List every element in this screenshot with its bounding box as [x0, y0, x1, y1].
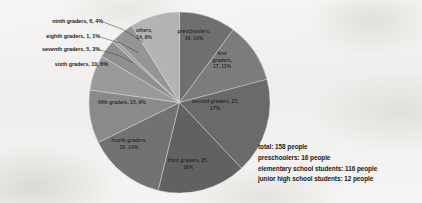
- summary-elementary: elementary school students: 116 people: [258, 164, 377, 175]
- pie-label-seventh-graders: seventh graders, 5, 3%: [0, 46, 100, 52]
- summary-text-block: total: 158 people preschoolers: 16 peopl…: [258, 142, 377, 185]
- pie-label-first-graders: first graders, 17, 11%: [200, 50, 244, 70]
- summary-junior-high: junior high school students: 12 people: [258, 174, 377, 185]
- pie-label-preschoolers: preschoolers, 16, 10%: [168, 28, 220, 41]
- pie-label-others: others, 14, 9%: [125, 27, 163, 40]
- pie-label-eighth-graders: eighth graders, 1, 1%: [0, 33, 100, 39]
- pie-label-fourth-graders: fourth graders, 22, 14%: [98, 137, 160, 150]
- pie-label-sixth-graders: sixth graders, 10, 6%: [0, 61, 108, 67]
- pie-label-third-graders: third graders, 25, 16%: [151, 157, 225, 170]
- summary-total: total: 158 people: [258, 142, 377, 153]
- pie-label-fifth-graders: fifth graders, 15, 9%: [82, 99, 162, 106]
- summary-preschoolers: preschoolers: 16 people: [258, 153, 377, 164]
- pie-label-second-graders: second graders, 27, 17%: [178, 98, 252, 111]
- pie-label-ninth-graders: ninth graders, 6, 4%: [0, 18, 103, 24]
